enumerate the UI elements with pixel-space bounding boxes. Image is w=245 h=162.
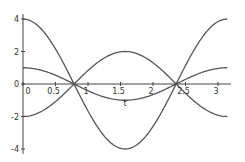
y-tick-label: 0 [14,80,19,89]
y-tick-label: -2 [11,113,19,122]
x-tick-label: 1 [83,87,88,96]
y-tick-label: 2 [14,48,19,57]
y-tick-label: -4 [11,145,19,154]
x-tick-label: 0 [25,87,30,96]
x-axis-label: t [123,99,126,108]
chart-axes [23,14,231,154]
line-chart: 00.511.522.53 -4-2024 t [0,0,245,162]
x-tick-label: 1.5 [112,87,125,96]
x-tick-label: 3 [213,87,218,96]
y-tick-label: 4 [14,15,19,24]
x-tick-label: 2 [148,87,153,96]
x-tick-label: 2.5 [177,87,190,96]
x-tick-label: 0.5 [47,87,60,96]
